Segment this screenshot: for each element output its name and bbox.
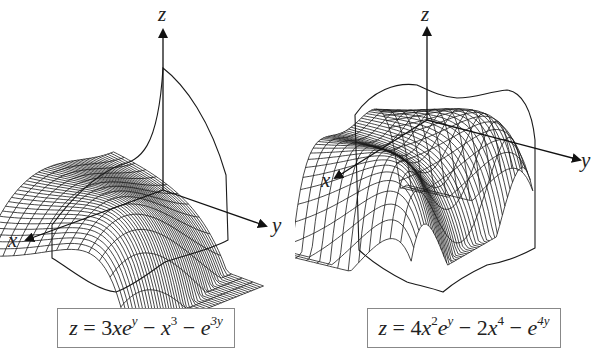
y-axis-label: y	[272, 215, 281, 236]
y-axis-label: y	[581, 150, 590, 171]
x-axis-label: x	[8, 230, 17, 251]
left-surface-wireframe	[0, 0, 295, 360]
right-equation-box: z = 4x2ey − 2x4 − e4y	[367, 308, 561, 348]
left-equation: z = 3xey − x3 − e3y	[69, 315, 222, 341]
x-axis-label: x	[321, 170, 330, 191]
z-axis-label: z	[158, 4, 166, 25]
left-equation-box: z = 3xey − x3 − e3y	[57, 308, 235, 348]
right-surface-figure: z x y z = 4x2ey − 2x4 − e4y	[295, 0, 591, 360]
right-surface-wireframe	[295, 0, 591, 360]
left-surface-figure: z x y z = 3xey − x3 − e3y	[0, 0, 295, 360]
z-axis-label: z	[421, 4, 429, 25]
right-equation: z = 4x2ey − 2x4 − e4y	[379, 315, 550, 341]
